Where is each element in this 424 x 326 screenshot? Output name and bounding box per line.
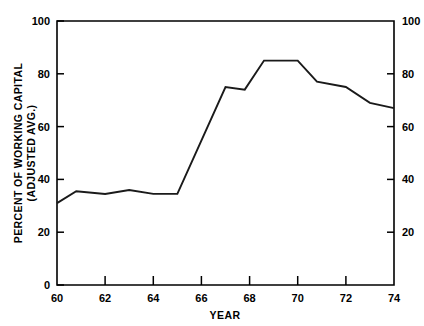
x-tick-label-74: 74 xyxy=(388,292,401,304)
y-tick-label-left-80: 80 xyxy=(38,68,50,80)
x-tick-label-66: 66 xyxy=(195,292,207,304)
y-tick-label-right-40: 40 xyxy=(402,173,414,185)
y-axis-title-line2: (ADJUSTED AVG.) xyxy=(25,104,37,201)
y-tick-label-left-60: 60 xyxy=(38,121,50,133)
y-tick-label-right-80: 80 xyxy=(402,68,414,80)
x-tick-label-72: 72 xyxy=(340,292,352,304)
x-tick-label-68: 68 xyxy=(243,292,255,304)
y-tick-label-left-0: 0 xyxy=(44,279,50,291)
x-tick-label-60: 60 xyxy=(51,292,63,304)
y-tick-label-left-20: 20 xyxy=(38,226,50,238)
chart-background xyxy=(0,0,424,326)
x-tick-label-64: 64 xyxy=(147,292,160,304)
y-axis-title-line1: PERCENT OF WORKING CAPITAL xyxy=(12,63,24,244)
y-tick-label-right-60: 60 xyxy=(402,121,414,133)
x-tick-label-70: 70 xyxy=(292,292,304,304)
y-tick-label-right-100: 100 xyxy=(402,15,420,27)
x-axis-title: YEAR xyxy=(210,309,241,321)
line-chart: 0 20 40 60 80 100 20 40 60 80 100 60 62 … xyxy=(0,0,424,326)
chart-figure: 0 20 40 60 80 100 20 40 60 80 100 60 62 … xyxy=(0,0,424,326)
y-tick-label-left-40: 40 xyxy=(38,173,50,185)
y-tick-label-right-20: 20 xyxy=(402,226,414,238)
y-tick-label-left-100: 100 xyxy=(32,15,50,27)
x-tick-label-62: 62 xyxy=(99,292,111,304)
